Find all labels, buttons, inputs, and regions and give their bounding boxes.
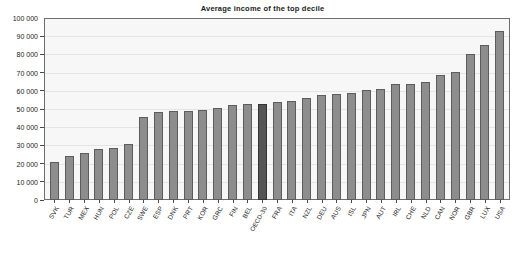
- x-axis-tick-label: TUR: [62, 205, 75, 220]
- x-axis-tick-label: DNK: [166, 205, 179, 221]
- bar-slot: [329, 18, 344, 200]
- x-axis-tick-mark: [69, 200, 70, 203]
- x-axis-slot: POL: [106, 200, 121, 259]
- y-axis-tick-label: 80 000: [17, 51, 38, 58]
- bar-slot: [62, 18, 77, 200]
- y-axis: 100 00090 00080 00070 00060 00050 00040 …: [0, 18, 44, 200]
- x-axis-slot: HUN: [92, 200, 107, 259]
- x-axis-tick-mark: [173, 200, 174, 203]
- bar: [80, 153, 89, 200]
- bar-slot: [106, 18, 121, 200]
- x-axis-tick-label: IRL: [391, 205, 402, 218]
- bar-slot: [448, 18, 463, 200]
- x-axis-tick-label: AUS: [330, 205, 343, 220]
- bar: [391, 84, 400, 200]
- bar: [436, 75, 445, 200]
- bar-slot: [225, 18, 240, 200]
- bar: [154, 112, 163, 200]
- x-axis-slot: OECD-30: [255, 200, 270, 259]
- x-axis-tick-mark: [84, 200, 85, 203]
- bar: [332, 94, 341, 200]
- x-axis-tick-label: GBR: [463, 205, 476, 221]
- bar: [480, 45, 489, 200]
- x-axis-slot: SVK: [47, 200, 62, 259]
- bar: [228, 105, 237, 200]
- x-axis-tick-mark: [411, 200, 412, 203]
- y-axis-tick-label: 20 000: [17, 160, 38, 167]
- x-axis-tick-label: ISL: [346, 205, 357, 217]
- x-axis-slot: IRL: [388, 200, 403, 259]
- bar-slot: [255, 18, 270, 200]
- x-axis-tick-mark: [114, 200, 115, 203]
- x-axis-tick-mark: [426, 200, 427, 203]
- x-axis-slot: CHE: [403, 200, 418, 259]
- bar-slot: [359, 18, 374, 200]
- bar: [273, 102, 282, 200]
- y-axis-tick-label: 40 000: [17, 124, 38, 131]
- bar-slot: [492, 18, 507, 200]
- x-axis-slot: GBR: [463, 200, 478, 259]
- x-axis-tick-label: NOR: [448, 205, 461, 221]
- x-axis-slot: GRC: [210, 200, 225, 259]
- x-axis-tick-label: FRA: [270, 205, 283, 220]
- bar-slot: [433, 18, 448, 200]
- bar: [169, 111, 178, 200]
- bar-slot: [463, 18, 478, 200]
- x-axis-slot: TUR: [62, 200, 77, 259]
- x-axis-tick-mark: [470, 200, 471, 203]
- x-axis-tick-mark: [218, 200, 219, 203]
- bar: [317, 95, 326, 200]
- x-axis-tick-label: ESP: [152, 205, 165, 220]
- bar: [406, 84, 415, 200]
- x-axis-tick-mark: [129, 200, 130, 203]
- bar: [124, 144, 133, 200]
- chart-container: Average income of the top decile 100 000…: [0, 0, 525, 259]
- x-axis-tick-label: POL: [107, 205, 120, 220]
- bar-highlighted: [258, 104, 267, 200]
- x-axis-slot: AUT: [374, 200, 389, 259]
- x-axis-tick-label: CHE: [404, 205, 417, 221]
- bar-slot: [210, 18, 225, 200]
- bar-slot: [151, 18, 166, 200]
- bar-slot: [270, 18, 285, 200]
- bar-slot: [314, 18, 329, 200]
- x-axis-slot: SWE: [136, 200, 151, 259]
- bar-slot: [77, 18, 92, 200]
- x-axis-slot: FIN: [225, 200, 240, 259]
- bar-slot: [47, 18, 62, 200]
- x-axis-tick-label: DEU: [315, 205, 328, 221]
- x-axis-tick-label: HUN: [92, 205, 105, 221]
- x-axis-slot: JPN: [359, 200, 374, 259]
- x-axis-slot: ESP: [151, 200, 166, 259]
- bar-slot: [418, 18, 433, 200]
- x-axis-tick-label: AUT: [374, 205, 387, 220]
- bar: [421, 82, 430, 200]
- y-axis-tick-label: 70 000: [17, 69, 38, 76]
- bar-slot: [299, 18, 314, 200]
- bar: [466, 54, 475, 200]
- y-axis-tick-label: 10 000: [17, 178, 38, 185]
- x-axis-tick-label: ITA: [287, 205, 298, 217]
- x-axis-tick-label: JPN: [360, 205, 372, 219]
- x-axis-tick-mark: [351, 200, 352, 203]
- x-axis-tick-mark: [440, 200, 441, 203]
- x-axis-tick-mark: [292, 200, 293, 203]
- x-axis-tick-label: NZL: [300, 205, 312, 219]
- y-axis-tick-label: 100 000: [13, 15, 38, 22]
- bar-slot: [166, 18, 181, 200]
- x-axis-tick-mark: [188, 200, 189, 203]
- x-axis-slot: CZE: [121, 200, 136, 259]
- x-axis-tick-label: GRC: [210, 205, 223, 221]
- x-axis-tick-mark: [396, 200, 397, 203]
- bar: [50, 162, 59, 200]
- bar: [287, 101, 296, 200]
- x-axis-slot: FRA: [270, 200, 285, 259]
- x-axis-tick-mark: [54, 200, 55, 203]
- x-axis-tick-label: MEX: [77, 205, 90, 221]
- x-axis-slot: DEU: [314, 200, 329, 259]
- x-axis-slot: NOR: [448, 200, 463, 259]
- x-axis-tick-label: LUX: [478, 205, 491, 220]
- x-axis-slot: ISL: [344, 200, 359, 259]
- bar-slot: [477, 18, 492, 200]
- x-axis-tick-mark: [322, 200, 323, 203]
